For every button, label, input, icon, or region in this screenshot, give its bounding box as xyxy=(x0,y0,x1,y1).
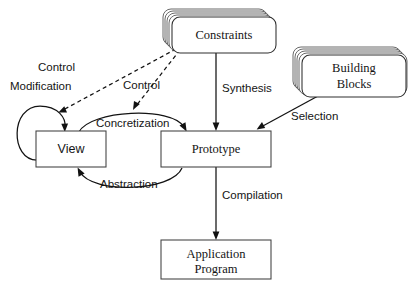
node-constraints[interactable]: Constraints xyxy=(163,9,276,53)
diagram-canvas: Synthesis Selection Compilation Concreti… xyxy=(0,0,409,287)
node-label-application-program-line2: Program xyxy=(194,262,237,276)
node-prototype[interactable]: Prototype xyxy=(161,131,271,167)
edge-concretization: Concretization xyxy=(79,113,187,132)
edge-label-concretization: Concretization xyxy=(96,117,170,129)
edge-label-selection: Selection xyxy=(291,110,338,122)
node-building-blocks[interactable]: Building Blocks xyxy=(293,47,407,97)
edge-label-synthesis: Synthesis xyxy=(222,82,272,94)
edge-control-to-concretization-line xyxy=(136,50,180,106)
process-flow-diagram: Synthesis Selection Compilation Concreti… xyxy=(0,0,409,287)
node-label-prototype: Prototype xyxy=(192,142,241,156)
edge-control-to-view-arrowhead xyxy=(58,106,67,112)
edge-label-modification: Modification xyxy=(10,80,71,92)
edge-synthesis-arrowhead xyxy=(213,123,220,131)
edge-selection-arrowhead xyxy=(257,122,266,129)
edge-compilation: Compilation xyxy=(213,167,283,240)
node-application-program[interactable]: Application Program xyxy=(161,240,271,279)
node-view[interactable]: View xyxy=(36,131,106,167)
edge-label-compilation: Compilation xyxy=(222,189,283,201)
edge-control-to-concretization: Control xyxy=(123,50,180,110)
edge-label-control-to-view: Control xyxy=(38,61,75,73)
edge-label-control-to-concretization: Control xyxy=(123,79,160,91)
edge-selection: Selection xyxy=(257,96,339,129)
edge-abstraction-arrowhead xyxy=(78,167,85,176)
node-label-view: View xyxy=(58,142,86,156)
node-label-constraints: Constraints xyxy=(196,28,253,42)
node-label-building-blocks-line2: Blocks xyxy=(337,77,372,91)
edge-label-abstraction: Abstraction xyxy=(100,178,158,190)
node-label-application-program-line1: Application xyxy=(186,247,246,261)
edge-compilation-arrowhead xyxy=(213,232,220,240)
edge-synthesis: Synthesis xyxy=(213,52,273,131)
edge-abstraction: Abstraction xyxy=(78,167,182,190)
node-label-building-blocks-line1: Building xyxy=(332,61,377,75)
